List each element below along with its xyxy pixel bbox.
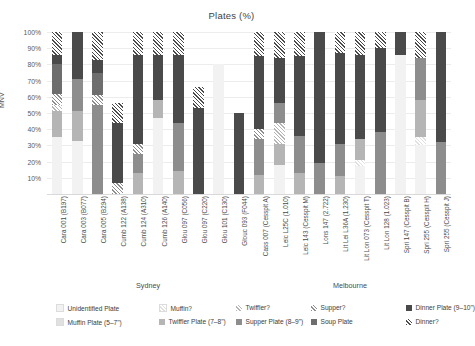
bar-segment[interactable]: [112, 103, 123, 122]
bar-column[interactable]: [294, 32, 305, 194]
bar-segment[interactable]: [173, 32, 184, 55]
bar-segment[interactable]: [415, 100, 426, 137]
bar-segment[interactable]: [254, 129, 265, 139]
bar-segment[interactable]: [72, 79, 83, 111]
bar-segment[interactable]: [294, 32, 305, 56]
bar-column[interactable]: [112, 32, 123, 194]
bar-segment[interactable]: [415, 145, 426, 194]
bar-column[interactable]: [254, 32, 265, 194]
bar-column[interactable]: [395, 32, 406, 194]
bar-segment[interactable]: [436, 32, 447, 142]
bar-column[interactable]: [355, 32, 366, 194]
bar-segment[interactable]: [274, 123, 285, 144]
bar-segment[interactable]: [254, 56, 265, 129]
bar-segment[interactable]: [395, 55, 406, 194]
bar-segment[interactable]: [112, 123, 123, 183]
bar-segment[interactable]: [72, 111, 83, 140]
bar-column[interactable]: [274, 32, 285, 194]
bar-segment[interactable]: [173, 123, 184, 172]
bar-segment[interactable]: [254, 175, 265, 194]
bar-segment[interactable]: [274, 32, 285, 58]
bar-segment[interactable]: [415, 137, 426, 145]
legend-item[interactable]: Muffin Plate (5–7"): [56, 318, 122, 326]
bar-segment[interactable]: [274, 103, 285, 122]
bar-segment[interactable]: [92, 95, 103, 105]
bar-segment[interactable]: [274, 165, 285, 194]
bar-segment[interactable]: [395, 32, 406, 55]
bar-segment[interactable]: [436, 142, 447, 194]
bar-column[interactable]: [314, 32, 325, 194]
legend-item[interactable]: Muffin?: [159, 304, 192, 312]
bar-segment[interactable]: [254, 139, 265, 175]
bar-column[interactable]: [213, 32, 224, 194]
legend-item[interactable]: Supper Plate (8–9"): [236, 318, 303, 325]
bar-segment[interactable]: [335, 32, 346, 53]
bar-segment[interactable]: [415, 32, 426, 58]
bar-segment[interactable]: [72, 141, 83, 194]
legend-item[interactable]: Twiffler?: [236, 304, 270, 311]
bar-segment[interactable]: [335, 53, 346, 144]
bar-segment[interactable]: [213, 64, 224, 194]
bar-segment[interactable]: [52, 55, 63, 65]
bar-segment[interactable]: [375, 48, 386, 132]
bar-segment[interactable]: [133, 144, 144, 154]
bar-segment[interactable]: [153, 100, 164, 118]
bar-segment[interactable]: [153, 118, 164, 194]
bar-segment[interactable]: [234, 113, 245, 194]
legend-item[interactable]: Soup Plate: [311, 318, 353, 325]
bar-segment[interactable]: [193, 87, 204, 108]
bar-segment[interactable]: [92, 60, 103, 73]
bar-segment[interactable]: [52, 111, 63, 137]
bar-column[interactable]: [92, 32, 103, 194]
legend-item[interactable]: Dinner Plate (9–10"): [406, 304, 475, 311]
bar-column[interactable]: [173, 32, 184, 194]
bar-segment[interactable]: [112, 183, 123, 194]
bar-segment[interactable]: [254, 32, 265, 56]
bar-segment[interactable]: [92, 105, 103, 194]
bar-column[interactable]: [436, 32, 447, 194]
bar-column[interactable]: [72, 32, 83, 194]
bar-segment[interactable]: [92, 73, 103, 96]
bar-segment[interactable]: [153, 55, 164, 100]
bar-column[interactable]: [234, 32, 245, 194]
bar-column[interactable]: [52, 32, 63, 194]
bar-segment[interactable]: [72, 32, 83, 79]
bar-segment[interactable]: [355, 166, 366, 194]
bar-column[interactable]: [375, 32, 386, 194]
bar-segment[interactable]: [173, 171, 184, 194]
legend-item[interactable]: Supper?: [311, 304, 345, 311]
bar-segment[interactable]: [274, 144, 285, 165]
bar-segment[interactable]: [375, 32, 386, 48]
bar-segment[interactable]: [355, 139, 366, 160]
bar-segment[interactable]: [294, 136, 305, 173]
legend-item[interactable]: Dinner?: [406, 318, 439, 325]
bar-segment[interactable]: [375, 132, 386, 194]
bar-segment[interactable]: [133, 173, 144, 194]
bar-segment[interactable]: [314, 163, 325, 194]
bar-column[interactable]: [335, 32, 346, 194]
bar-segment[interactable]: [52, 32, 63, 55]
bar-segment[interactable]: [133, 55, 144, 144]
legend-item[interactable]: Unidentified Plate: [56, 304, 119, 312]
bar-segment[interactable]: [314, 32, 325, 163]
bar-segment[interactable]: [355, 160, 366, 166]
bar-segment[interactable]: [52, 105, 63, 111]
bar-segment[interactable]: [335, 144, 346, 176]
bar-column[interactable]: [133, 32, 144, 194]
bar-column[interactable]: [415, 32, 426, 194]
legend-item[interactable]: Twiffler Plate (7–8"): [159, 318, 226, 325]
bar-segment[interactable]: [92, 32, 103, 60]
bar-segment[interactable]: [294, 56, 305, 135]
bar-segment[interactable]: [294, 173, 305, 194]
bar-segment[interactable]: [153, 32, 164, 55]
bar-segment[interactable]: [355, 32, 366, 55]
bar-segment[interactable]: [274, 58, 285, 103]
bar-segment[interactable]: [173, 55, 184, 123]
bar-segment[interactable]: [133, 154, 144, 173]
bar-column[interactable]: [193, 32, 204, 194]
bar-segment[interactable]: [193, 108, 204, 194]
bar-segment[interactable]: [335, 176, 346, 194]
bar-column[interactable]: [153, 32, 164, 194]
bar-segment[interactable]: [133, 32, 144, 55]
bar-segment[interactable]: [415, 58, 426, 100]
